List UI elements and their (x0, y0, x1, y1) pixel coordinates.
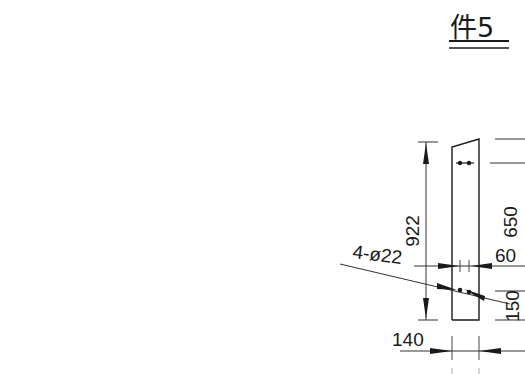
arrow-up-icon (423, 143, 429, 164)
bottom-holes (340, 264, 525, 320)
technical-drawing: 件5 922 650 60 (0, 0, 525, 374)
hole-icon (458, 288, 463, 293)
leader-arrow-icon (437, 283, 457, 290)
dimension-overall-height: 922 (402, 142, 438, 320)
dim-hole-spacing-horizontal-text: 60 (495, 245, 516, 266)
hole-callout-text: 4-ø22 (352, 241, 404, 268)
dimension-width: 140 (392, 329, 525, 360)
arrow-right-icon (438, 263, 459, 269)
dim-bottom-offset-text: 150 (502, 290, 523, 322)
hole-icon (458, 161, 462, 165)
dimension-hole-spacing-horizontal: 60 (414, 245, 525, 272)
arrow-down-icon (423, 298, 429, 319)
arrow-left-icon (471, 263, 492, 269)
part-title-text: 件5 (450, 12, 494, 43)
hole-icon (467, 290, 472, 295)
dim-overall-height-text: 922 (402, 215, 423, 247)
arrow-right-icon (430, 348, 452, 354)
part-title: 件5 (449, 12, 509, 48)
dim-width-text: 140 (392, 329, 424, 350)
top-holes (456, 161, 525, 165)
arrow-left-icon (479, 348, 501, 354)
hole-icon (467, 161, 471, 165)
dim-hole-spacing-vertical-text: 650 (500, 206, 521, 238)
